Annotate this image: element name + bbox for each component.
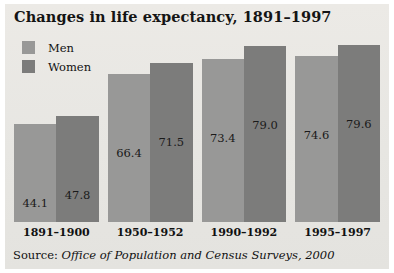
bar-value-label: 74.6: [295, 128, 337, 142]
source-text: Office of Population and Census Surveys,…: [61, 248, 334, 262]
chart-title: Changes in life expectancy, 1891–1997: [14, 8, 332, 25]
bar-men: 74.6: [295, 56, 337, 222]
bar-value-label: 73.4: [202, 131, 244, 145]
bar-value-label: 44.1: [14, 196, 56, 210]
bar-value-label: 47.8: [56, 188, 98, 202]
bar-group: 66.471.5: [108, 26, 193, 222]
category-label: 1990–1992: [202, 226, 287, 239]
category-label: 1891–1900: [14, 226, 99, 239]
bar-men: 66.4: [108, 74, 150, 222]
bar-women: 79.6: [338, 45, 380, 222]
bar-group: 74.679.6: [295, 26, 380, 222]
source-prefix: Source:: [13, 248, 61, 262]
bar-group: 44.147.8: [14, 26, 99, 222]
chart-figure: Changes in life expectancy, 1891–1997 Me…: [0, 0, 394, 273]
bar-group: 73.479.0: [202, 26, 287, 222]
bar-women: 79.0: [244, 46, 286, 222]
bar-men: 44.1: [14, 124, 56, 222]
bar-women: 47.8: [56, 116, 98, 222]
bar-value-label: 66.4: [108, 146, 150, 160]
category-label: 1950–1952: [108, 226, 193, 239]
category-axis: 1891–19001950–19521990–19921995–1997: [14, 226, 380, 242]
bar-value-label: 79.6: [338, 117, 380, 131]
plot-area: 44.147.866.471.573.479.074.679.6: [14, 26, 380, 222]
bar-men: 73.4: [202, 59, 244, 222]
bar-value-label: 71.5: [150, 135, 192, 149]
source-note: Source: Office of Population and Census …: [13, 248, 334, 262]
bar-women: 71.5: [150, 63, 192, 222]
category-label: 1995–1997: [295, 226, 380, 239]
bar-value-label: 79.0: [244, 118, 286, 132]
